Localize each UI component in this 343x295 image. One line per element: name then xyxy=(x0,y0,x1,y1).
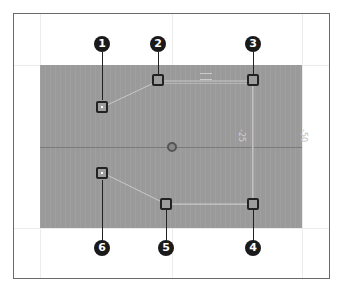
callout-badge-2: 2 xyxy=(150,36,166,52)
callout-badge-6: 6 xyxy=(94,240,110,256)
callout-line-4 xyxy=(253,210,254,244)
callout-line-5 xyxy=(166,210,167,244)
handle-2[interactable] xyxy=(152,74,164,86)
callout-line-6 xyxy=(102,180,103,244)
handle-6[interactable] xyxy=(96,167,108,179)
callout-line-2 xyxy=(158,52,159,74)
handle-4[interactable] xyxy=(247,198,259,210)
handle-3[interactable] xyxy=(247,74,259,86)
callout-badge-5: 5 xyxy=(158,240,174,256)
handle-5[interactable] xyxy=(160,198,172,210)
callout-line-3 xyxy=(253,52,254,74)
callout-badge-4: 4 xyxy=(245,240,261,256)
callout-badge-3: 3 xyxy=(245,36,261,52)
callout-line-1 xyxy=(102,52,103,100)
callout-badge-1: 1 xyxy=(94,36,110,52)
handle-1[interactable] xyxy=(96,101,108,113)
